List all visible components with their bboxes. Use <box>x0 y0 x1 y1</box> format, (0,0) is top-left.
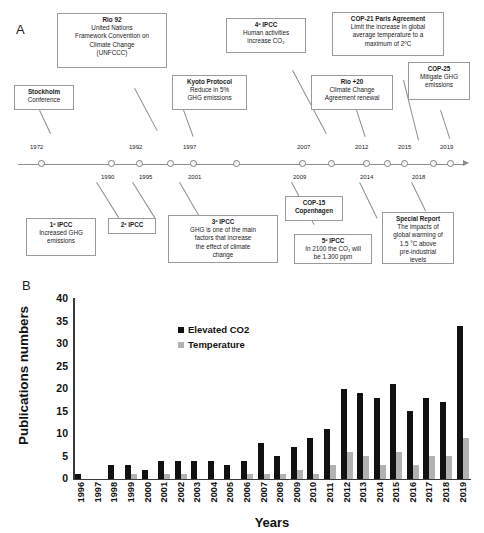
timeline-node[interactable] <box>430 160 437 167</box>
timeline-node[interactable] <box>233 160 240 167</box>
event-title: 2º IPCC <box>111 221 153 229</box>
timeline-node[interactable] <box>136 160 143 167</box>
timeline-node[interactable] <box>363 160 370 167</box>
event-line: Framework Convention on <box>60 32 164 40</box>
panel-a-letter: A <box>16 22 25 37</box>
bar-temperature[interactable] <box>264 474 270 479</box>
bar-temperature[interactable] <box>313 474 319 479</box>
timeline-node[interactable] <box>190 160 197 167</box>
event-line: the effect of climate <box>171 243 275 251</box>
timeline-event-cop25[interactable]: COP-25 Mitigate GHG emissions <box>408 62 470 100</box>
bar-temperature[interactable] <box>413 465 419 479</box>
timeline-node[interactable] <box>299 160 306 167</box>
y-tick-label: 0 <box>62 472 68 484</box>
bar-group[interactable] <box>438 299 455 479</box>
bar-co2[interactable] <box>307 438 313 479</box>
bar-group[interactable] <box>355 299 372 479</box>
timeline-panel: A Stockholm Conference Rio 92 United Nat… <box>0 0 484 272</box>
event-title: Rio 92 <box>60 16 164 24</box>
bar-temperature[interactable] <box>131 474 137 479</box>
bar-temperature[interactable] <box>380 465 386 479</box>
bar-group[interactable] <box>371 299 388 479</box>
timeline-node[interactable] <box>38 160 45 167</box>
bar-group[interactable] <box>90 299 107 479</box>
event-title: COP-21 Paris Agreement <box>335 15 441 23</box>
bar-temperature[interactable] <box>396 452 402 479</box>
bar-group[interactable] <box>405 299 422 479</box>
timeline-node[interactable] <box>328 160 335 167</box>
leader-line <box>440 110 450 139</box>
bar-co2[interactable] <box>208 461 214 479</box>
event-line: emissions <box>411 81 467 89</box>
x-tick-label: 1997 <box>90 482 107 502</box>
bar-group[interactable] <box>73 299 90 479</box>
timeline-node[interactable] <box>108 160 115 167</box>
x-tick-label: 2007 <box>255 482 272 502</box>
bar-group[interactable] <box>156 299 173 479</box>
leader-line <box>411 182 426 211</box>
event-line: Limit the increase in global <box>335 23 441 31</box>
timeline-event-special-report[interactable]: Special Report The impacts of global war… <box>382 212 454 264</box>
x-tick-label: 2003 <box>189 482 206 502</box>
bar-co2[interactable] <box>75 474 81 479</box>
bar-co2[interactable] <box>191 461 197 479</box>
timeline-event-rio20[interactable]: Rio +20 Climate Change Agreement renewal <box>311 75 393 110</box>
timeline-node[interactable] <box>167 160 174 167</box>
timeline-event-kyoto-protocol[interactable]: Kyoto Protocol Reduce in 5% GHG emission… <box>172 75 247 110</box>
bar-temperature[interactable] <box>347 452 353 479</box>
timeline-event-1-ipcc[interactable]: 1º IPCC Increased GHG emissions <box>26 218 96 256</box>
bar-group[interactable] <box>106 299 123 479</box>
bar-temperature[interactable] <box>164 474 170 479</box>
event-title: 4º IPCC <box>229 21 303 29</box>
timeline-event-cop15-copenhagen[interactable]: COP-15 Copenhagen <box>285 196 343 221</box>
timeline-event-2-ipcc[interactable]: 2º IPCC <box>108 218 156 234</box>
event-line: 1.5 °C above <box>385 240 451 248</box>
timeline-node[interactable] <box>401 160 408 167</box>
bar-temperature[interactable] <box>247 474 253 479</box>
bar-group[interactable] <box>272 299 289 479</box>
bar-temperature[interactable] <box>330 465 336 479</box>
bar-co2[interactable] <box>142 470 148 479</box>
bar-group[interactable] <box>139 299 156 479</box>
timeline-event-rio92[interactable]: Rio 92 United Nations Framework Conventi… <box>57 13 167 68</box>
event-title: COP-15 <box>288 199 340 207</box>
bar-group[interactable] <box>421 299 438 479</box>
event-line: Agreement renewal <box>314 94 390 102</box>
event-title: 1º IPCC <box>29 221 93 229</box>
bar-temperature[interactable] <box>429 456 435 479</box>
bar-temperature[interactable] <box>363 456 369 479</box>
bar-group[interactable] <box>305 299 322 479</box>
chart-legend: Elevated CO2 Temperature <box>178 324 249 354</box>
leader-line <box>134 88 157 131</box>
event-line: factors that increase <box>171 234 275 242</box>
event-title: COP-25 <box>411 65 467 73</box>
timeline-event-3-ipcc[interactable]: 3º IPCC GHG is one of the main factors t… <box>168 215 278 263</box>
x-tick-label: 2011 <box>322 482 339 502</box>
event-line: Conference <box>17 96 71 104</box>
timeline-event-4-ipcc[interactable]: 4º IPCC Human activities increase CO₂ <box>226 18 306 53</box>
timeline-node[interactable] <box>384 160 391 167</box>
bar-group[interactable] <box>454 299 471 479</box>
bar-group[interactable] <box>289 299 306 479</box>
leader-line <box>183 110 194 137</box>
y-tick-label: 35 <box>56 315 68 327</box>
timeline-event-5-ipcc[interactable]: 5º IPCC In 2100 the CO₂ will be 1.300 pp… <box>294 234 372 264</box>
timeline-node[interactable] <box>447 160 454 167</box>
bar-temperature[interactable] <box>297 470 303 479</box>
bar-temperature[interactable] <box>280 474 286 479</box>
bar-group[interactable] <box>255 299 272 479</box>
bar-temperature[interactable] <box>463 438 469 479</box>
timeline-event-stockholm[interactable]: Stockholm Conference <box>14 85 74 110</box>
x-tick-label: 2002 <box>172 482 189 502</box>
leader-line <box>359 182 377 218</box>
plot-area: 0510152025303540 Elevated CO2 Temperatur… <box>73 298 471 480</box>
bar-co2[interactable] <box>224 465 230 479</box>
bar-temperature[interactable] <box>181 474 187 479</box>
timeline-event-cop21-paris[interactable]: COP-21 Paris Agreement Limit the increas… <box>332 12 444 56</box>
bar-temperature[interactable] <box>446 456 452 479</box>
bar-group[interactable] <box>388 299 405 479</box>
bar-group[interactable] <box>123 299 140 479</box>
bar-co2[interactable] <box>108 465 114 479</box>
bar-group[interactable] <box>338 299 355 479</box>
bar-group[interactable] <box>322 299 339 479</box>
